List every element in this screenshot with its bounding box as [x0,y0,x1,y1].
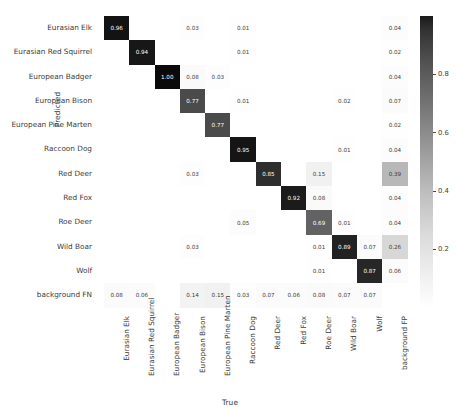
y-tick-label: European Pine Marten [0,113,98,137]
matrix-cell [205,137,230,161]
matrix-cell-value: 0.77 [186,98,198,104]
matrix-cell-value: 0.01 [237,25,249,31]
matrix-cell [155,113,180,137]
matrix-cell [306,40,331,64]
matrix-cell: 0.04 [382,65,407,89]
matrix-cell [230,186,255,210]
matrix-cell: 0.01 [332,137,357,161]
matrix-cell: 0.04 [382,16,407,40]
matrix-cell: 0.03 [205,65,230,89]
matrix-cell [155,210,180,234]
matrix-cell [155,259,180,283]
matrix-cell: 0.07 [332,283,357,307]
matrix-cell: 0.87 [357,259,382,283]
matrix-cell [205,89,230,113]
matrix-cell: 0.08 [180,65,205,89]
matrix-cell: 0.07 [256,283,281,307]
x-tick-label: Roe Deer [323,316,335,376]
matrix-cell: 0.02 [382,40,407,64]
colorbar-tick-label: 0.2 [433,245,458,253]
matrix-cell [155,235,180,259]
matrix-cell: 0.03 [230,283,255,307]
matrix-cell [256,259,281,283]
matrix-cell [104,235,129,259]
matrix-cell [256,235,281,259]
matrix-cell [230,259,255,283]
x-tick-label: European Badger [171,316,183,376]
matrix-cell: 0.39 [382,162,407,186]
x-tick-label: Eurasian Red Squirrel [146,316,158,376]
matrix-cell-value: 0.08 [313,195,325,201]
matrix-cell [256,16,281,40]
matrix-cell: 0.69 [306,210,331,234]
matrix-cell [281,259,306,283]
matrix-cell [104,210,129,234]
matrix-cell: 0.01 [230,40,255,64]
matrix-cell [332,65,357,89]
matrix-cell-value: 0.08 [186,74,198,80]
matrix-cell: 0.03 [180,162,205,186]
matrix-cell [281,162,306,186]
x-tick-label: Red Fox [298,316,310,376]
matrix-cell [256,89,281,113]
matrix-cell-value: 0.07 [338,292,350,298]
matrix-cell: 0.05 [230,210,255,234]
matrix-cell-value: 0.04 [389,74,401,80]
matrix-cell [357,16,382,40]
matrix-cell-value: 0.87 [363,268,375,274]
matrix-cell-value: 0.06 [287,292,299,298]
x-tick-label: Raccoon Dog [247,316,259,376]
matrix-cell [256,137,281,161]
matrix-cell: 0.77 [205,113,230,137]
matrix-cell-value: 0.07 [363,244,375,250]
matrix-cell: 0.94 [129,40,154,64]
x-tick-label: European Pine Marten [222,316,234,376]
matrix-cell: 0.06 [382,259,407,283]
matrix-cell-value: 0.39 [389,171,401,177]
matrix-cell: 0.77 [180,89,205,113]
matrix-cell: 0.89 [332,235,357,259]
matrix-cell [281,16,306,40]
matrix-cell [256,65,281,89]
matrix-cell [256,40,281,64]
y-tick-label: Eurasian Red Squirrel [0,40,98,64]
matrix-cell: 0.08 [306,283,331,307]
matrix-cell-value: 0.14 [186,292,198,298]
colorbar-gradient [420,16,433,308]
x-axis-title: True [150,398,310,407]
matrix-cell-value: 0.07 [262,292,274,298]
matrix-cell [332,162,357,186]
matrix-cell [180,259,205,283]
matrix-cell [205,186,230,210]
y-tick-label: Eurasian Elk [0,16,98,40]
colorbar-tick-label: 0.8 [433,70,458,78]
matrix-cell-value: 0.03 [186,171,198,177]
matrix-cell [230,235,255,259]
y-tick-label: Red Deer [0,162,98,186]
matrix-cell [332,259,357,283]
matrix-cell: 0.06 [281,283,306,307]
matrix-cell [129,16,154,40]
matrix-cell [357,89,382,113]
matrix-cell-value: 0.02 [389,122,401,128]
matrix-cell [281,40,306,64]
matrix-cell [332,186,357,210]
matrix-cell-value: 0.01 [313,268,325,274]
matrix-cell: 0.07 [382,89,407,113]
matrix-cell: 0.04 [382,186,407,210]
matrix-cell [256,113,281,137]
matrix-cell [155,162,180,186]
matrix-cell [104,113,129,137]
matrix-cell: 0.15 [306,162,331,186]
matrix-cell-value: 0.04 [389,25,401,31]
matrix-cell [230,113,255,137]
y-tick-label: Raccoon Dog [0,137,98,161]
matrix-cell-value: 0.04 [389,147,401,153]
matrix-cell: 0.03 [180,16,205,40]
matrix-cell: 0.01 [306,259,331,283]
colorbar-tick-label: 0.6 [433,129,458,137]
y-tick-label: European Bison [0,89,98,113]
matrix-cell [357,40,382,64]
matrix-cell [104,89,129,113]
matrix-cell-value: 0.95 [237,147,249,153]
